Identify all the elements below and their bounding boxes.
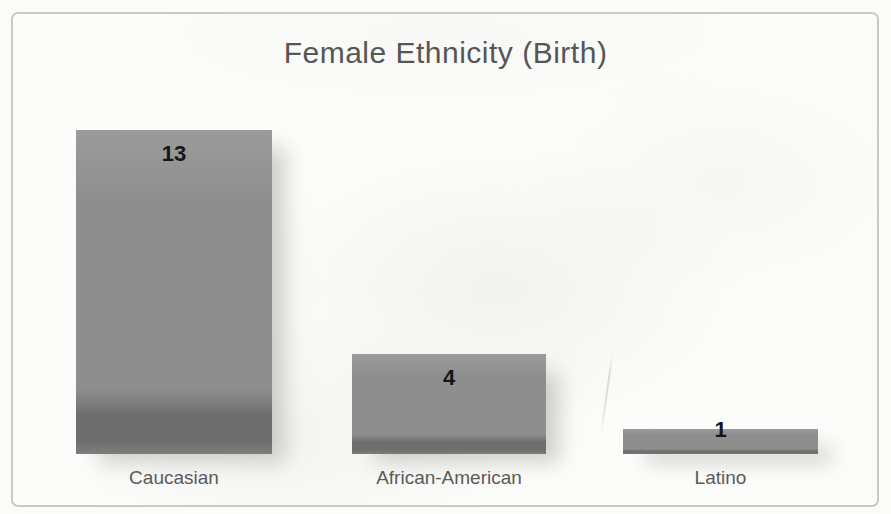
scanned-bar-chart: Female Ethnicity (Birth) 13Caucasian4Afr…: [0, 0, 891, 514]
bar-caucasian: [76, 130, 272, 454]
category-label-latino: Latino: [591, 467, 851, 489]
category-label-african-american: African-American: [319, 467, 579, 489]
category-label-caucasian: Caucasian: [44, 467, 304, 489]
chart-title: Female Ethnicity (Birth): [0, 36, 891, 70]
value-label-caucasian: 13: [76, 141, 272, 167]
value-label-african-american: 4: [352, 365, 546, 391]
value-label-latino: 1: [623, 417, 818, 443]
